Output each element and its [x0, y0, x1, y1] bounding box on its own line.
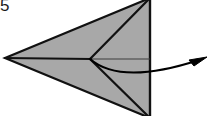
step-number-label: 5 — [0, 0, 9, 15]
crease-horizontal — [5, 58, 91, 59]
origami-figure-root: 5 — [0, 0, 212, 116]
origami-diagram-svg: 5 — [0, 0, 212, 116]
